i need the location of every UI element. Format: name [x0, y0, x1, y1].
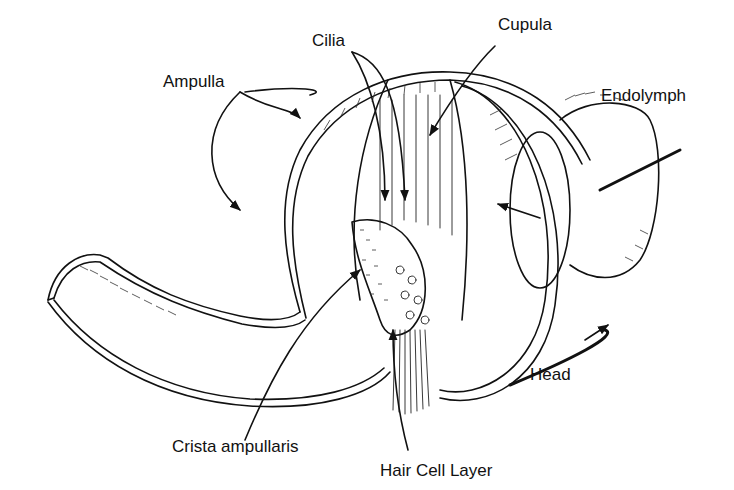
canal-tube	[48, 255, 390, 407]
ampulla-wall	[285, 72, 590, 318]
label-hair-cell-layer: Hair Cell Layer	[380, 461, 493, 480]
label-cupula: Cupula	[498, 15, 552, 34]
label-crista-ampullaris: Crista ampullaris	[172, 437, 299, 456]
ampulla-ring	[440, 82, 659, 400]
ampulla-diagram: Cilia Cupula Ampulla Endolymph Head Cris…	[0, 0, 734, 490]
crista-ampullaris	[352, 220, 429, 335]
label-ampulla: Ampulla	[163, 72, 225, 91]
label-cilia: Cilia	[312, 31, 346, 50]
endolymph-arrow	[498, 150, 680, 218]
label-endolymph: Endolymph	[601, 86, 686, 105]
label-head: Head	[530, 365, 571, 384]
